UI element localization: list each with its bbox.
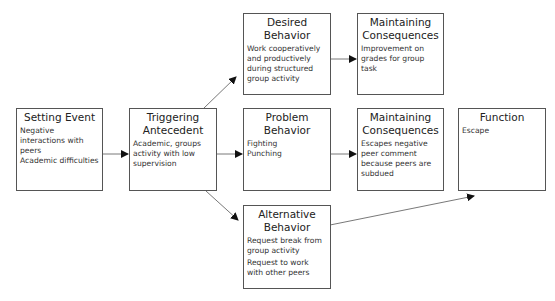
node-item: Work cooperatively and productively duri… — [247, 44, 327, 84]
arrow-trigger-to-desired — [204, 77, 236, 108]
node-setting-event: Setting Event Negative interactions with… — [16, 108, 103, 191]
arrow-alternative-to-function — [330, 196, 474, 225]
node-problem-behavior: Problem Behavior Fighting Punching — [243, 108, 331, 191]
node-item: Escape — [462, 126, 542, 136]
node-problem-consequences: Maintaining Consequences Escapes negativ… — [357, 108, 444, 191]
node-item: Negative interactions with peers — [20, 126, 99, 156]
node-title: Maintaining Consequences — [361, 111, 440, 137]
node-body: Request break from group activity Reques… — [247, 236, 327, 278]
node-alternative-behavior: Alternative Behavior Request break from … — [243, 205, 331, 289]
node-title: Setting Event — [20, 111, 99, 124]
node-body: Improvement on grades for group task — [361, 44, 440, 74]
node-body: Escape — [462, 126, 542, 136]
node-body: Escapes negative peer comment because pe… — [361, 139, 440, 179]
node-body: Work cooperatively and productively duri… — [247, 44, 327, 84]
node-item: Escapes negative peer comment because pe… — [361, 139, 440, 179]
node-title: Desired Behavior — [247, 16, 327, 42]
node-body: Negative interactions with peers Academi… — [20, 126, 99, 166]
node-desired-behavior: Desired Behavior Work cooperatively and … — [243, 13, 331, 95]
node-item: Fighting — [247, 139, 327, 149]
node-body: Fighting Punching — [247, 139, 327, 159]
node-title: Triggering Antecedent — [133, 111, 213, 137]
arrow-trigger-to-alternative — [206, 191, 238, 220]
node-body: Academic, groups activity with low super… — [133, 139, 213, 169]
node-function: Function Escape — [458, 108, 546, 191]
node-title: Alternative Behavior — [247, 208, 327, 234]
node-title: Problem Behavior — [247, 111, 327, 137]
node-triggering-antecedent: Triggering Antecedent Academic, groups a… — [129, 108, 217, 191]
node-item: Academic difficulties — [20, 156, 99, 166]
node-item: Request to work with other peers — [247, 258, 327, 278]
node-item: Academic, groups activity with low super… — [133, 139, 213, 169]
node-item: Punching — [247, 149, 327, 159]
node-item: Improvement on grades for group task — [361, 44, 440, 74]
node-desired-consequences: Maintaining Consequences Improvement on … — [357, 13, 444, 95]
node-title: Maintaining Consequences — [361, 16, 440, 42]
node-item: Request break from group activity — [247, 236, 327, 256]
node-title: Function — [462, 111, 542, 124]
